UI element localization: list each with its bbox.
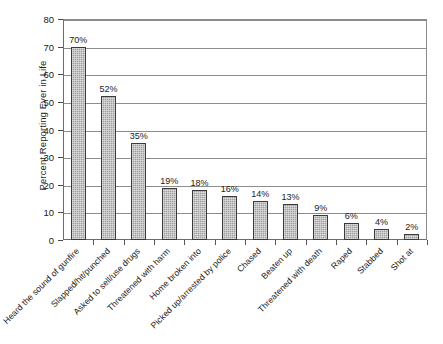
x-category-label: Raped (329, 246, 354, 271)
x-category-label: Chased (235, 246, 263, 274)
x-category-label: Stabbed (355, 246, 385, 276)
bar-chart: Percent Reporting Ever in Life 010203040… (0, 0, 443, 344)
x-axis-labels: Heard the sound of gunfireSlapped/hit/pu… (0, 0, 443, 344)
x-category-label: Shot at (388, 246, 415, 273)
